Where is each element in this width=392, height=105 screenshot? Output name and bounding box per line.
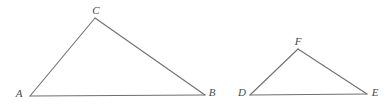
figure-canvas: A B C D E F xyxy=(0,0,392,105)
vertex-label-d: D xyxy=(237,86,246,98)
vertex-label-b: B xyxy=(209,86,216,98)
geometry-figure: A B C D E F xyxy=(0,0,392,105)
vertex-label-f: F xyxy=(294,35,302,47)
vertex-label-c: C xyxy=(92,4,100,16)
vertex-label-e: E xyxy=(371,86,379,98)
vertex-label-a: A xyxy=(15,87,23,99)
